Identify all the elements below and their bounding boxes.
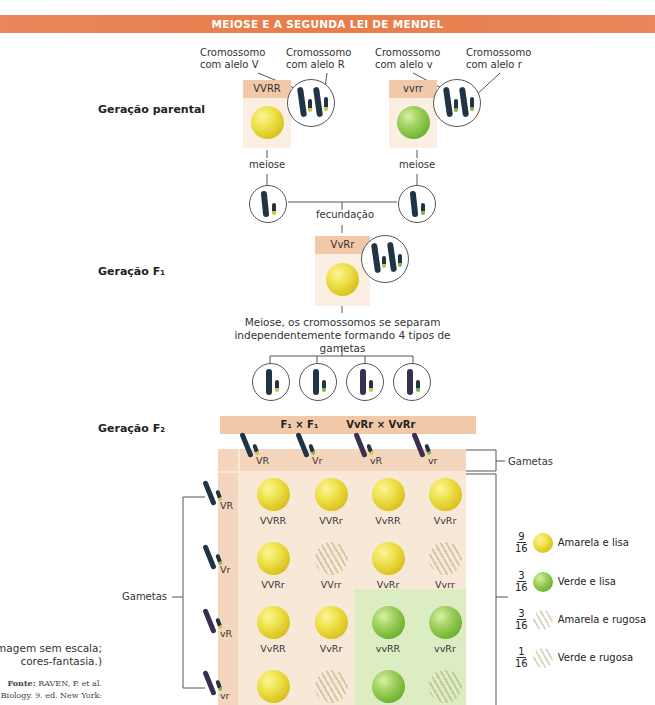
offspring-genotype: VvRr [320, 643, 343, 654]
yellow-smooth-pea-icon [257, 606, 290, 639]
gamete-label: vr [428, 455, 438, 466]
f1-meiosis-text: Meiose, os cromossomos se separam indepe… [220, 316, 465, 355]
yellow-wrinkled-pea-icon [315, 542, 348, 575]
chromosome-circle-VvRr [361, 235, 409, 283]
offspring-cell: VvRr [363, 542, 413, 590]
gametes-label-top: Gametas [508, 456, 553, 468]
fraction-numerator: 1 [517, 646, 525, 658]
fraction-denominator: 16 [515, 582, 528, 593]
yellow-smooth-pea-icon [326, 263, 359, 296]
ratio-fraction: 316 [515, 570, 528, 593]
offspring-genotype: vvRR [376, 643, 400, 654]
gamete-label: Vr [220, 564, 230, 575]
green-smooth-pea-icon [372, 606, 405, 639]
column-gamete-VR: VR [240, 430, 296, 470]
chromosome-icon [407, 369, 413, 395]
offspring-cell: Vvrr [420, 542, 470, 590]
green-smooth-pea-icon [533, 572, 553, 592]
offspring-cell: vvRR [363, 606, 413, 654]
chromosome-icon [470, 97, 474, 111]
chromosome-icon [421, 203, 425, 215]
chromosome-icon [322, 380, 326, 392]
chromosome-icon [202, 670, 216, 696]
source-citation: Fonte: RAVEN, P. et al. Biology. 9. ed. … [1, 677, 102, 702]
yellow-smooth-pea-icon [315, 606, 348, 639]
yellow-wrinkled-pea-icon [429, 542, 462, 575]
f2-generation-label: Geração F₂ [98, 422, 165, 435]
gamete-circle-Vr [299, 363, 337, 401]
legend-label: Verde e rugosa [558, 652, 633, 663]
chromosome-icon [366, 444, 374, 456]
yellow-smooth-pea-icon [315, 478, 348, 511]
chromosome-circle-VVRR [287, 79, 335, 127]
corner-cell [218, 449, 238, 471]
scale-note: (Imagem sem escala; cores-fantasia.) [0, 642, 102, 668]
offspring-genotype: VvRr [377, 579, 400, 590]
fraction-numerator: 3 [517, 570, 525, 582]
ratio-fraction: 116 [515, 646, 528, 669]
chromosome-icon [261, 191, 270, 217]
green-smooth-pea-icon [372, 670, 405, 703]
source-label: Fonte: [8, 678, 36, 688]
fraction-denominator: 16 [515, 658, 528, 669]
gamete-circle-VR [249, 185, 287, 223]
offspring-cell [363, 670, 413, 703]
gametes-label-left: Gametas [122, 591, 167, 603]
chromosome-icon [416, 380, 420, 392]
green-smooth-pea-icon [429, 606, 462, 639]
chromosome-icon [459, 87, 469, 118]
gamete-label: VR [256, 455, 269, 466]
chromosome-icon [266, 369, 272, 395]
offspring-genotype: VVRR [260, 515, 286, 526]
chromosome-icon [202, 544, 216, 570]
row-gamete-vR: vR [203, 606, 243, 646]
offspring-genotype: VvRR [260, 643, 285, 654]
fraction-denominator: 16 [515, 543, 528, 554]
ratio-fraction: 916 [515, 531, 528, 554]
yellow-smooth-pea-icon [257, 670, 290, 703]
fertilization-label: fecundação [316, 209, 374, 221]
yellow-wrinkled-pea-icon [533, 610, 553, 630]
chromosome-icon [454, 99, 458, 112]
gamete-label: vr [220, 690, 230, 701]
green-wrinkled-pea-icon [429, 670, 462, 703]
chromosome-icon [443, 87, 453, 118]
chromosome-icon [308, 444, 316, 456]
offspring-genotype: Vvrr [435, 579, 455, 590]
text-line: cores-fantasia.) [0, 655, 102, 668]
chromosome-icon [371, 243, 381, 274]
meiosis-label-right: meiose [399, 159, 435, 171]
chromosome-icon [313, 369, 319, 395]
legend-item-green-wrinkled: 116 Verde e rugosa [515, 646, 633, 669]
offspring-cell: VvRr [306, 606, 356, 654]
fraction-numerator: 9 [517, 531, 525, 543]
legend-item-yellow-wrinkled: 316 Amarela e rugosa [515, 608, 646, 631]
offspring-cell: VVRR [248, 478, 298, 526]
chromosome-icon [424, 444, 432, 456]
source-text: Biology. 9. ed. New York: [1, 690, 102, 702]
yellow-smooth-pea-icon [251, 106, 284, 139]
chromosome-icon [313, 87, 323, 118]
green-smooth-pea-icon [397, 106, 430, 139]
chromosome-icon [410, 191, 419, 217]
f1-generation-label: Geração F₁ [98, 265, 165, 278]
row-gamete-VR: VR [203, 478, 243, 518]
gamete-circle-VR [252, 363, 290, 401]
offspring-genotype: VVrr [321, 579, 342, 590]
chromosome-icon [202, 608, 216, 634]
offspring-genotype: VvRr [434, 515, 457, 526]
ratio-fraction: 316 [515, 608, 528, 631]
gamete-label: vR [220, 628, 232, 639]
offspring-cell [248, 670, 298, 703]
genotype-tab-VVRR: VVRR [243, 80, 291, 98]
offspring-genotype: VvRR [375, 515, 400, 526]
gamete-label: vR [370, 455, 382, 466]
row-gamete-Vr: Vr [203, 542, 243, 582]
gamete-label: Vr [312, 455, 322, 466]
yellow-smooth-pea-icon [429, 478, 462, 511]
chromosome-icon [272, 203, 276, 215]
chromosome-icon [369, 380, 373, 392]
chromosome-icon [360, 369, 366, 395]
offspring-cell: VVRr [306, 478, 356, 526]
yellow-smooth-pea-icon [257, 542, 290, 575]
